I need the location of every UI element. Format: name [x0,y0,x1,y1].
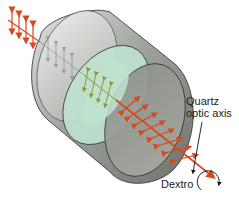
quartz-cylinder [23,0,199,187]
dextro-label: Dextro [161,178,193,191]
optic-axis-label-line2: optic axis [186,107,232,120]
incident-light-beam [8,10,40,46]
